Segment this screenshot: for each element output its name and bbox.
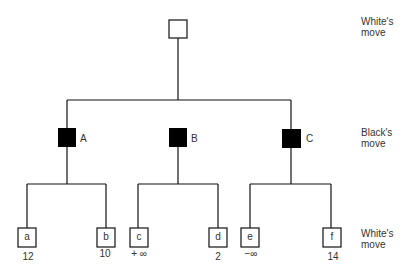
level-label-root: White's move [361,16,393,38]
leaf-label-a: a [18,231,36,242]
leaf-value-d: 2 [203,251,233,262]
leaf-value-f: 14 [318,251,348,262]
node-label-c: C [306,133,313,144]
leaf-label-d: d [209,231,227,242]
leaf-label-b: b [97,231,115,242]
leaf-label-f: f [323,231,341,242]
level-label-black: Black's move [361,127,392,149]
game-tree-lines [0,0,409,272]
leaf-label-c: c [130,231,148,242]
leaf-label-e: e [241,231,259,242]
black-node-b [169,128,187,147]
node-label-a: A [80,133,87,144]
node-label-b: B [191,133,198,144]
black-node-c [282,129,301,148]
root-node [169,20,187,38]
leaf-value-e: −∞ [236,248,266,259]
level-label-leaves: White's move [361,228,393,250]
leaf-value-a: 12 [13,251,43,262]
leaf-value-c: + ∞ [124,248,154,259]
leaf-value-b: 10 [90,248,120,259]
black-node-a [58,128,76,147]
